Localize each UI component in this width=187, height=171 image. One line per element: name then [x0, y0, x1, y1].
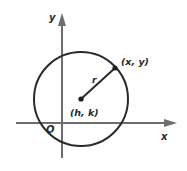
y-axis-arrowhead	[58, 13, 66, 26]
origin-label: O	[46, 124, 55, 135]
x-axis-label: x	[160, 131, 168, 142]
y-axis-label: y	[49, 12, 56, 23]
center-label: (h, k)	[70, 107, 99, 118]
circle-point	[112, 65, 117, 70]
point-on-circle-label: (x, y)	[121, 56, 149, 67]
center-point	[78, 96, 83, 101]
x-axis-arrowhead	[164, 119, 177, 127]
radius-label: r	[92, 75, 97, 85]
circle-diagram: y x O r (x, y) (h, k)	[0, 0, 187, 171]
radius-segment	[81, 68, 115, 99]
